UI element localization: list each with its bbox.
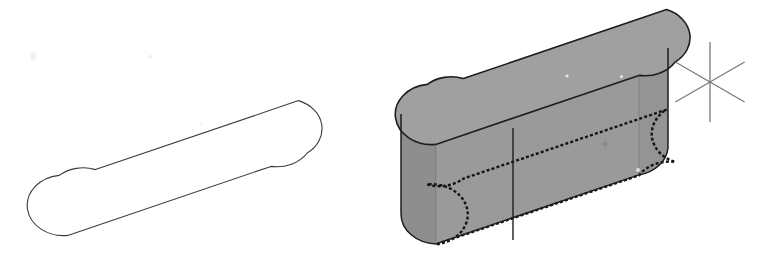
isometric-crosshair-cursor[interactable]: [675, 42, 744, 122]
pick-blip-marker: [565, 74, 568, 77]
cad-figure-canvas: [0, 0, 780, 261]
view-3d-solid[interactable]: [395, 10, 690, 245]
stadium-profile-outline[interactable]: [27, 101, 322, 236]
cad-drawing-svg: [0, 0, 780, 261]
view-2d-profile[interactable]: [27, 101, 322, 236]
